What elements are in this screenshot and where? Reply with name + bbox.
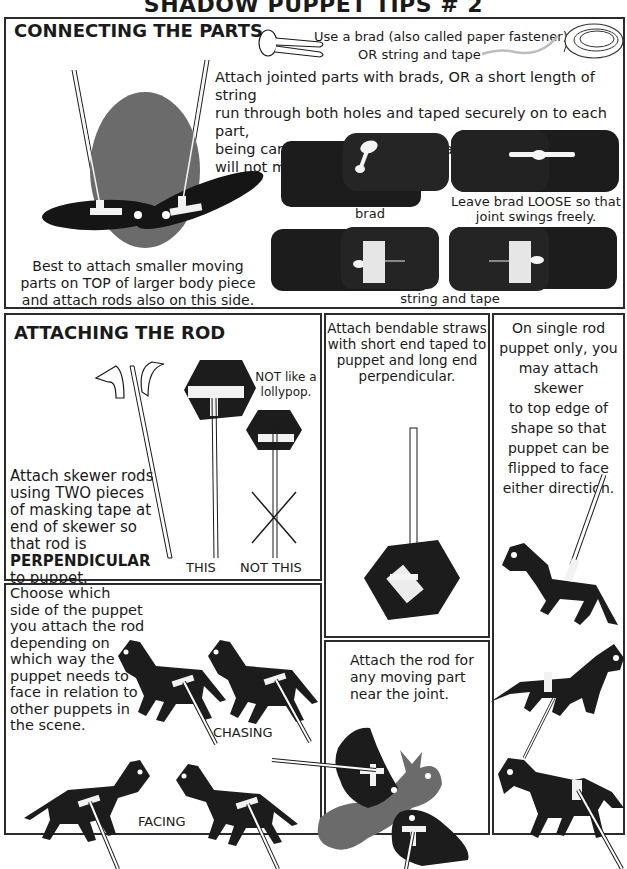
instruction-line: shape so that — [492, 418, 625, 438]
instruction-line: near the joint. — [350, 686, 474, 703]
instruction-line: side of the puppet — [10, 602, 144, 619]
chasing-label: CHASING — [213, 726, 273, 740]
lollypop-line: NOT like a — [254, 370, 318, 385]
moving-part-instructions: Attach the rod for any moving part near … — [350, 652, 474, 703]
brad-example — [281, 133, 451, 211]
single-rod-instructions: On single rod puppet only, you may attac… — [492, 318, 625, 498]
instruction-line: using TWO pieces — [10, 485, 153, 502]
string-tape-example-2 — [449, 227, 621, 293]
instruction-line: Attach skewer rods — [10, 468, 153, 485]
string-icon — [480, 34, 560, 58]
this-label: THIS — [186, 561, 216, 575]
instruction-line: On single rod — [492, 318, 625, 338]
brad-label: brad — [340, 207, 400, 221]
instruction-line: to top edge of — [492, 398, 625, 418]
instruction-line: Choose which — [10, 585, 144, 602]
straws-instructions: Attach bendable straws with short end ta… — [324, 320, 490, 384]
string-tape-example-1 — [271, 227, 441, 293]
string-note: OR string and tape — [358, 48, 481, 62]
caption-line: parts on TOP of larger body piece — [18, 275, 258, 292]
lollypop-note: NOT like a lollypop. — [254, 370, 318, 400]
brad-loose-example — [451, 130, 621, 192]
instruction-line: puppet and long end — [324, 352, 490, 368]
connecting-heading: CONNECTING THE PARTS — [14, 20, 263, 41]
straw-hexagon-illustration — [360, 428, 460, 618]
not-this-hexagon-puppet — [244, 408, 308, 558]
instruction-line: may attach skewer — [492, 358, 625, 398]
instruction-line: you attach the rod — [10, 618, 144, 635]
caption-line: Best to attach smaller moving — [18, 258, 258, 275]
instruction-line: puppet only, you — [492, 338, 625, 358]
instruction-line: with short end taped to — [324, 336, 490, 352]
instruction-line: Attach the rod for — [350, 652, 474, 669]
horse-single-rod-3 — [494, 738, 626, 869]
instruction-line: Attach bendable straws — [324, 320, 490, 336]
instruction-line: any moving part — [350, 669, 474, 686]
loose-label: Leave brad LOOSE so that joint swings fr… — [446, 194, 626, 224]
jointed-body-illustration — [20, 60, 250, 260]
lollypop-line: lollypop. — [254, 385, 318, 400]
horse-single-rod-2 — [490, 642, 626, 722]
tape-roll-icon — [562, 22, 624, 60]
instruction-line: that rod is — [10, 536, 153, 553]
left-caption: Best to attach smaller moving parts on T… — [18, 258, 258, 309]
loose-line: joint swings freely. — [446, 209, 626, 224]
page-title: SHADOW PUPPET TIPS # 2 — [0, 0, 627, 17]
instruction-line: end of skewer so — [10, 519, 153, 536]
caption-line: and attach rods also on this side. — [18, 292, 258, 309]
not-this-label: NOT THIS — [240, 561, 302, 575]
horse-single-rod-1 — [500, 475, 620, 625]
attaching-rod-heading: ATTACHING THE ROD — [14, 322, 225, 343]
instruction-line: Attach jointed parts with brads, OR a sh… — [215, 68, 627, 104]
attaching-rod-instructions: Attach skewer rods using TWO pieces of m… — [10, 468, 153, 587]
perpendicular-emphasis: PERPENDICULAR — [10, 553, 153, 570]
instruction-line: puppet can be — [492, 438, 625, 458]
horse-facing-left — [22, 758, 152, 869]
loose-line: Leave brad LOOSE so that — [446, 194, 626, 209]
instruction-line: of masking tape at — [10, 502, 153, 519]
bird-puppet-illustration — [272, 708, 492, 869]
string-tape-label: string and tape — [380, 292, 520, 306]
instruction-line: perpendicular. — [324, 368, 490, 384]
